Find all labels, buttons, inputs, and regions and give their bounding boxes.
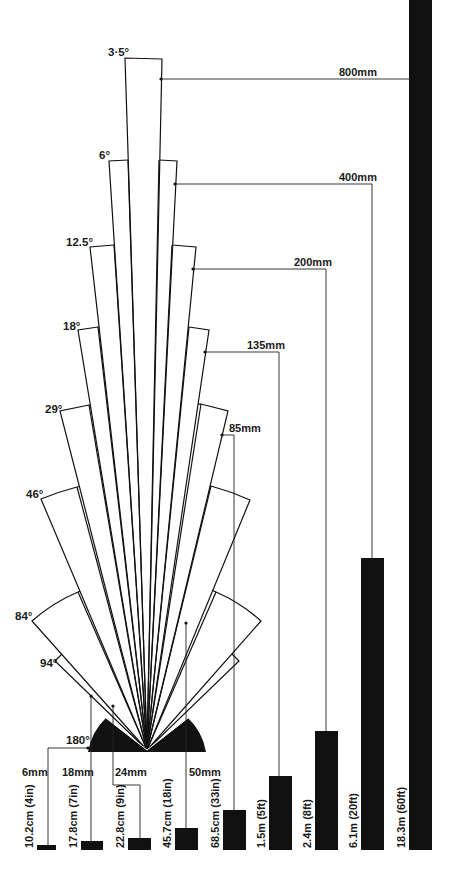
lens-angle-of-view-diagram: 3·5° 6° 12.5° 18° 29° 46° 84° 94° 180° 8… bbox=[0, 0, 450, 869]
distance-label-800mm: 18.3m (60ft) bbox=[395, 787, 407, 848]
angle-wedges bbox=[32, 58, 261, 750]
distance-labels: 10.2cm (4in) 17.8cm (7in) 22.8cm (9in) 4… bbox=[23, 778, 407, 848]
bar-18mm bbox=[81, 841, 103, 850]
angle-label-94: 94° bbox=[40, 657, 58, 669]
distance-label-18mm: 17.8cm (7in) bbox=[67, 784, 79, 848]
distance-label-200mm: 2.4m (8ft) bbox=[301, 799, 313, 848]
focal-label-24mm: 24mm bbox=[115, 766, 147, 778]
distance-label-6mm: 10.2cm (4in) bbox=[23, 784, 35, 848]
angle-label-180: 180° bbox=[66, 734, 90, 746]
focal-label-200mm: 200mm bbox=[294, 256, 332, 268]
bar-50mm bbox=[175, 828, 198, 850]
focal-label-6mm: 6mm bbox=[22, 766, 48, 778]
bar-200mm bbox=[315, 731, 338, 850]
bar-24mm bbox=[128, 838, 151, 850]
angle-label-46: 46° bbox=[26, 488, 44, 500]
focal-label-85mm: 85mm bbox=[229, 422, 261, 434]
distance-label-135mm: 1.5m (5ft) bbox=[255, 799, 267, 848]
bar-6mm bbox=[37, 845, 56, 850]
angle-label-84: 84° bbox=[15, 610, 33, 622]
angle-label-3-5: 3·5° bbox=[108, 46, 130, 58]
bar-800mm bbox=[409, 0, 432, 850]
angle-label-29: 29° bbox=[45, 403, 63, 415]
bar-400mm bbox=[361, 558, 384, 850]
distance-label-50mm: 45.7cm (18in) bbox=[161, 778, 173, 848]
distance-label-400mm: 6.1m (20ft) bbox=[347, 793, 359, 848]
focal-label-800mm: 800mm bbox=[339, 66, 377, 78]
distance-label-24mm: 22.8cm (9in) bbox=[114, 784, 126, 848]
focal-label-135mm: 135mm bbox=[247, 339, 285, 351]
bar-85mm bbox=[223, 810, 246, 850]
focal-label-50mm: 50mm bbox=[189, 766, 221, 778]
bar-135mm bbox=[269, 776, 292, 850]
focal-label-400mm: 400mm bbox=[339, 171, 377, 183]
angle-label-6: 6° bbox=[99, 149, 110, 161]
angle-label-18: 18° bbox=[63, 320, 81, 332]
focal-label-18mm: 18mm bbox=[62, 766, 94, 778]
angle-label-12-5: 12.5° bbox=[66, 236, 93, 248]
distance-label-85mm: 68.5cm (33in) bbox=[209, 778, 221, 848]
